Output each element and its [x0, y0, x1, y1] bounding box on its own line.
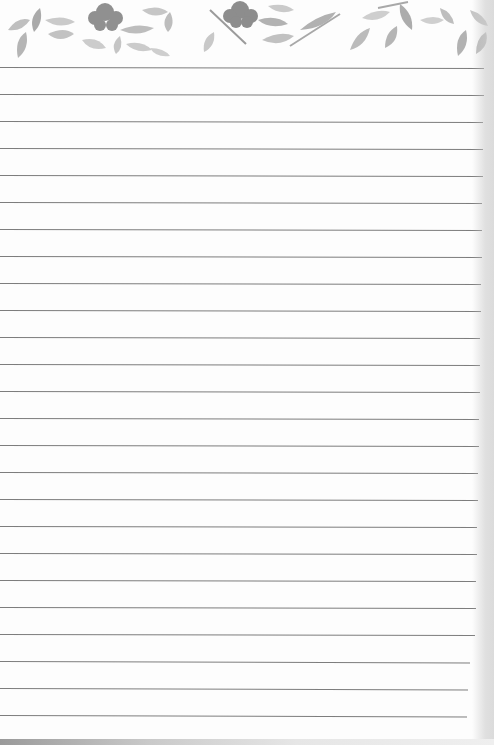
ruled-line: [0, 283, 481, 285]
ruled-line: [0, 715, 467, 718]
ruled-line: [0, 229, 482, 231]
page-edge-shadow: [472, 0, 494, 745]
ruled-line: [0, 175, 483, 177]
ruled-line: [0, 580, 476, 582]
ruled-line: [0, 526, 477, 528]
ruled-line: [0, 472, 478, 474]
ruled-line: [0, 202, 482, 204]
ruled-line: [0, 121, 483, 123]
ruled-line: [0, 553, 477, 555]
ruled-line: [0, 94, 484, 96]
ruled-line: [0, 499, 478, 501]
ruled-line: [0, 337, 480, 339]
ruled-line: [0, 67, 484, 69]
ruled-lines: [0, 0, 494, 745]
ruled-line: [0, 148, 483, 150]
ruled-line: [0, 607, 476, 609]
ruled-line: [0, 661, 470, 664]
page-bottom-edge: [0, 739, 494, 745]
ruled-line: [0, 310, 481, 312]
ruled-line: [0, 445, 479, 447]
ruled-line: [0, 418, 479, 420]
ruled-line: [0, 391, 480, 393]
ruled-line: [0, 256, 482, 258]
ruled-line: [0, 634, 475, 636]
notepad-page: [0, 0, 494, 745]
ruled-line: [0, 364, 480, 366]
ruled-line: [0, 688, 468, 691]
